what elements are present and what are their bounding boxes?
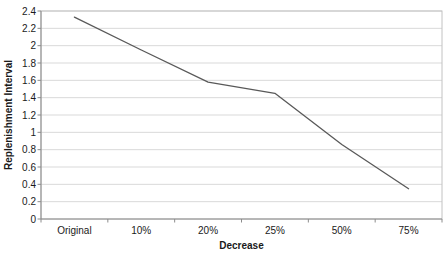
y-tick-label: 1.8: [22, 58, 36, 69]
y-tick-label: 2.4: [22, 6, 36, 17]
x-tick-label: 20%: [198, 225, 218, 236]
y-tick-label: 2.2: [22, 23, 36, 34]
y-tick-label: 1.6: [22, 75, 36, 86]
x-tick-label: 75%: [399, 225, 419, 236]
y-tick-label: 2: [30, 40, 36, 51]
x-axis-title: Decrease: [41, 240, 442, 251]
x-tick-label: 25%: [265, 225, 285, 236]
x-tick-label: 10%: [131, 225, 151, 236]
y-tick-label: 1.4: [22, 92, 36, 103]
y-tick-label: 0.8: [22, 144, 36, 155]
y-tick-label: 1: [30, 127, 36, 138]
y-tick-label: 0.6: [22, 162, 36, 173]
x-tick-label: Original: [57, 225, 91, 236]
y-axis-title: Replenishment Interval: [3, 60, 14, 170]
y-tick-label: 0.2: [22, 196, 36, 207]
y-tick-label: 0.4: [22, 179, 36, 190]
x-tick-label: 50%: [332, 225, 352, 236]
y-tick-label: 1.2: [22, 110, 36, 121]
series-line: [74, 17, 408, 189]
chart-plot-area: 00.20.40.60.811.21.41.61.822.22.4Origina…: [0, 0, 447, 255]
y-tick-label: 0: [30, 214, 36, 225]
line-chart: 00.20.40.60.811.21.41.61.822.22.4Origina…: [0, 0, 447, 255]
